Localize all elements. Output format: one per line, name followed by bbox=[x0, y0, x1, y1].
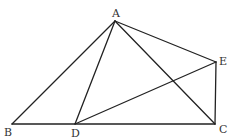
geometry-figure: A B D C E bbox=[0, 0, 230, 140]
label-A: A bbox=[111, 7, 121, 20]
segment-AE bbox=[115, 21, 216, 62]
label-B: B bbox=[4, 126, 12, 139]
segment-EC bbox=[215, 62, 216, 124]
segment-AB bbox=[12, 21, 115, 124]
figure-canvas: A B D C E bbox=[0, 0, 230, 140]
label-C: C bbox=[219, 123, 227, 136]
segment-AC bbox=[115, 21, 215, 124]
label-E: E bbox=[219, 55, 227, 68]
label-D: D bbox=[71, 127, 80, 140]
